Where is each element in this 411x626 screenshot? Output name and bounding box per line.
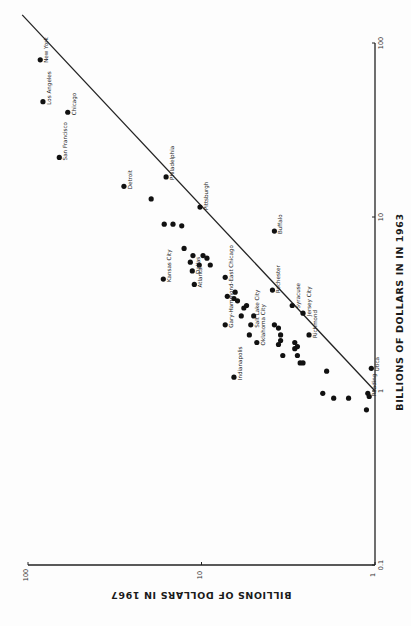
point-label: Syracuse xyxy=(295,282,302,308)
data-point xyxy=(278,332,283,337)
data-point xyxy=(181,246,186,251)
data-point xyxy=(324,369,329,374)
point-label: Buffalo xyxy=(277,214,283,234)
data-point xyxy=(204,256,209,261)
point-label: Indianapolis xyxy=(237,346,244,380)
tick-label-1963: 1 xyxy=(377,389,385,393)
data-point xyxy=(331,396,336,401)
data-point xyxy=(272,228,277,233)
data-point xyxy=(248,322,253,327)
data-point xyxy=(38,57,43,62)
data-point xyxy=(161,276,166,281)
data-point xyxy=(162,222,167,227)
data-point xyxy=(247,332,252,337)
data-point xyxy=(276,342,281,347)
y-axis-title-1967: BILLIONS OF DOLLARS IN 1967 xyxy=(111,590,292,601)
data-point xyxy=(241,305,246,310)
data-point xyxy=(223,322,228,327)
tick-label-1963: 10 xyxy=(377,213,385,221)
point-label: Rochester xyxy=(275,264,281,293)
data-point xyxy=(163,174,168,179)
point-label: Reading xyxy=(371,373,378,396)
data-point xyxy=(170,222,175,227)
data-point xyxy=(121,184,126,189)
point-label: San Francisco xyxy=(62,121,68,160)
scatter-plot: 0.1110100110100New YorkLos AngelesChicag… xyxy=(0,0,411,626)
data-point xyxy=(364,407,369,412)
data-point xyxy=(208,262,213,267)
data-point xyxy=(179,223,184,228)
data-point xyxy=(276,325,281,330)
data-point xyxy=(188,260,193,265)
data-point xyxy=(367,394,372,399)
data-point xyxy=(197,204,202,209)
point-label: Pittsburgh xyxy=(203,181,210,210)
data-point xyxy=(300,360,305,365)
point-label: Gary-Hammond-East Chicago xyxy=(228,245,235,328)
data-point xyxy=(272,322,277,327)
data-point xyxy=(190,268,195,273)
data-point xyxy=(300,311,305,316)
point-label: Philadelphia xyxy=(169,146,176,180)
data-point xyxy=(57,155,62,160)
data-point xyxy=(292,346,297,351)
data-point xyxy=(280,353,285,358)
data-point xyxy=(346,396,351,401)
point-label: Utica xyxy=(374,357,380,371)
tick-label-1963: 100 xyxy=(377,37,385,49)
data-point xyxy=(254,340,259,345)
chart-page: 0.1110100110100New YorkLos AngelesChicag… xyxy=(0,0,411,626)
point-label: New York xyxy=(43,36,49,62)
data-point xyxy=(320,391,325,396)
point-label: Chicago xyxy=(71,92,78,115)
data-point xyxy=(295,353,300,358)
data-point xyxy=(290,303,295,308)
data-point xyxy=(223,275,228,280)
point-label: Richmond xyxy=(312,309,318,337)
data-point xyxy=(231,375,236,380)
data-point xyxy=(270,288,275,293)
x-axis-title-1963: BILLIONS OF DOLLARS IN IN 1963 xyxy=(394,213,405,410)
data-point xyxy=(239,313,244,318)
point-label: Kansas City xyxy=(166,249,173,282)
point-label: Atlanta xyxy=(197,267,203,287)
data-point xyxy=(192,282,197,287)
tick-label-1967: 100 xyxy=(22,569,30,581)
tick-label-1967: 10 xyxy=(196,571,204,579)
data-point xyxy=(149,196,154,201)
tick-label-1963: 0.1 xyxy=(377,560,385,570)
data-point xyxy=(235,298,240,303)
tick-label-1967: 1 xyxy=(369,573,377,577)
point-label: Detroit xyxy=(127,169,133,189)
data-point xyxy=(306,332,311,337)
data-point xyxy=(40,99,45,104)
reference-line xyxy=(22,15,375,391)
data-point xyxy=(369,366,374,371)
data-point xyxy=(65,110,70,115)
point-label: Los Angeles xyxy=(46,71,53,104)
point-label: Oklahoma City xyxy=(260,304,267,346)
